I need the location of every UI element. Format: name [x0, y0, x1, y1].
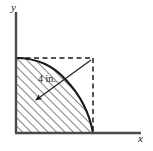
- radius-dimension-label: 4 in.: [38, 73, 56, 84]
- quarter-circle-diagram: 4 in. y x: [0, 0, 153, 151]
- x-axis-label: x: [137, 132, 143, 144]
- figure-container: 4 in. y x: [0, 0, 153, 151]
- y-axis-label: y: [10, 1, 16, 13]
